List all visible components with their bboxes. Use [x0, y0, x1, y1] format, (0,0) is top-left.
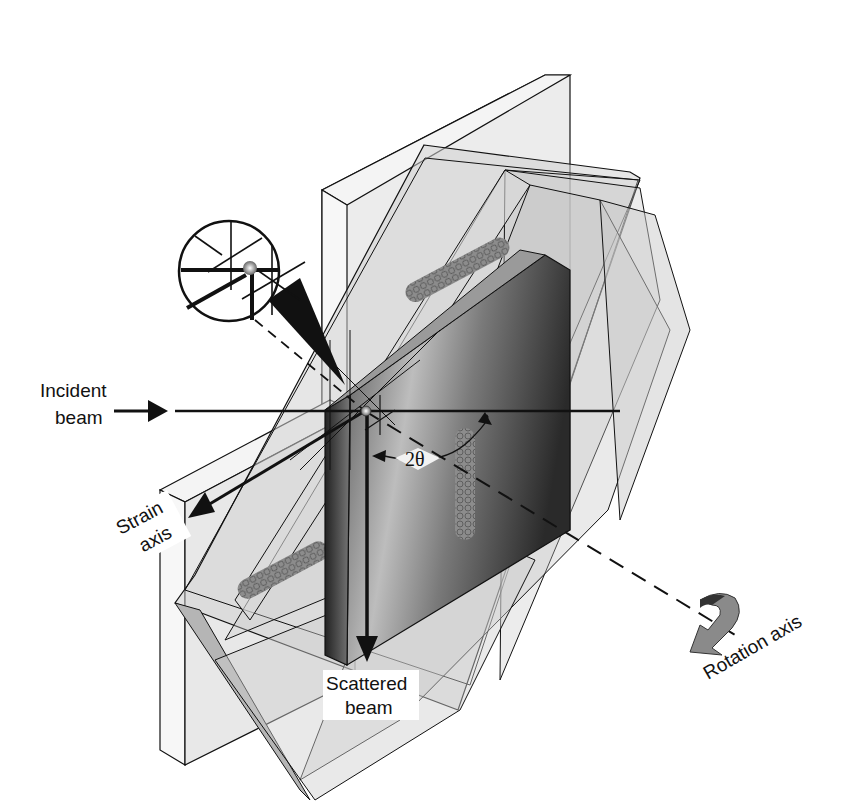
svg-text:Scattered: Scattered	[326, 673, 407, 694]
svg-text:beam: beam	[55, 407, 103, 428]
incident-beam-label: Incident beam	[40, 380, 107, 428]
strain-scanning-diagram: 2θ Incident beam Strain axis	[0, 0, 854, 810]
scattered-beam-label: Scattered beam	[323, 670, 419, 720]
svg-text:Incident: Incident	[40, 380, 107, 401]
two-theta-label: 2θ	[405, 448, 425, 470]
svg-text:beam: beam	[345, 697, 393, 718]
